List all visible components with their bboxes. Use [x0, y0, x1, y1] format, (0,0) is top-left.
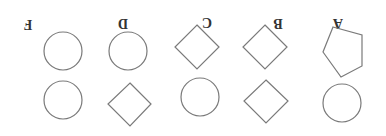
- diamond-icon: [175, 25, 219, 69]
- circle-icon: [109, 32, 147, 70]
- column-a: A: [323, 16, 362, 122]
- column-f: F: [24, 17, 82, 119]
- circle-icon: [323, 84, 361, 122]
- circle-icon: [44, 81, 82, 119]
- label-d: D: [118, 16, 128, 31]
- circle-icon: [181, 78, 219, 116]
- column-b: B: [243, 16, 288, 123]
- column-c: C: [175, 15, 219, 116]
- label-c: C: [202, 15, 212, 30]
- label-b: B: [273, 16, 282, 31]
- diamond-icon: [244, 80, 288, 123]
- shape-matching-figure: A B C D F: [0, 0, 386, 136]
- column-d: D: [108, 16, 151, 126]
- pentagon-icon: [323, 27, 362, 77]
- label-f: F: [24, 17, 33, 32]
- circle-icon: [44, 32, 82, 70]
- diamond-icon: [108, 83, 151, 126]
